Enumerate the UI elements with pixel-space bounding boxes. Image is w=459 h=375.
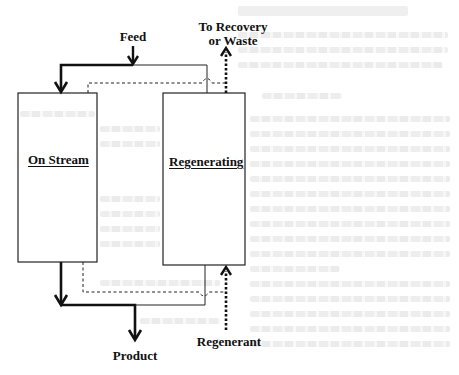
process-flow-diagram (0, 0, 459, 375)
feed-arrow (128, 46, 138, 64)
recovery-arrow (221, 48, 231, 93)
feed-to-on-stream-line (55, 65, 133, 92)
on-stream-title: On Stream (28, 152, 89, 168)
on-stream-vessel (18, 93, 97, 262)
on-stream-to-product-line (55, 262, 141, 340)
regenerant-arrow (221, 267, 231, 330)
feed-label: Feed (120, 30, 147, 44)
recovery-label-line1: To Recovery (198, 20, 267, 34)
top-dashed-line (88, 79, 226, 94)
product-label: Product (113, 349, 158, 363)
feed-bypass-line (133, 65, 207, 93)
regenerating-bottom-line (135, 265, 205, 305)
regenerating-vessel (163, 93, 245, 265)
regenerating-title: Regenerating (169, 154, 243, 170)
regenerant-label: Regenerant (197, 335, 261, 349)
recovery-label-line2: or Waste (209, 34, 258, 48)
